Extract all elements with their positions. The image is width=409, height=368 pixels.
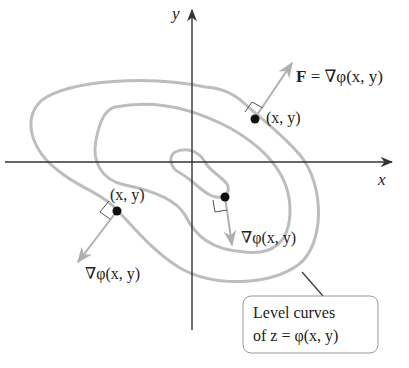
gradient-label-center: ∇φ(x, y): [241, 229, 296, 247]
level-curves-callout: Level curves of z = φ(x, y): [243, 272, 378, 353]
gradient-label-lower-left: ∇φ(x, y): [85, 265, 140, 283]
y-axis-label: y: [170, 4, 180, 23]
x-axis-label: x: [377, 170, 386, 189]
point-upper-right-group: (x, y) F = ∇φ(x, y): [245, 63, 383, 127]
callout-line2: of z = φ(x, y): [253, 327, 338, 345]
point-label-lower-left: (x, y): [110, 186, 145, 204]
callout-line1: Level curves: [253, 304, 335, 321]
point-marker: [221, 193, 230, 202]
point-center-group: ∇φ(x, y): [213, 193, 296, 248]
point-label-upper-right: (x, y): [266, 109, 301, 127]
point-lower-left-group: (x, y) ∇φ(x, y): [78, 186, 145, 283]
point-marker: [113, 207, 122, 216]
level-curve-inner: [171, 150, 228, 197]
point-marker: [251, 115, 260, 124]
field-label: F = ∇φ(x, y): [296, 67, 383, 86]
axes: x y: [5, 4, 392, 330]
callout-leader: [302, 272, 323, 296]
gradient-arrow-center: [225, 197, 232, 245]
level-curves-diagram: x y (x, y) F = ∇φ(x, y) (x, y) ∇φ(x, y) …: [0, 0, 409, 368]
gradient-arrow-lower-left: [78, 211, 117, 262]
